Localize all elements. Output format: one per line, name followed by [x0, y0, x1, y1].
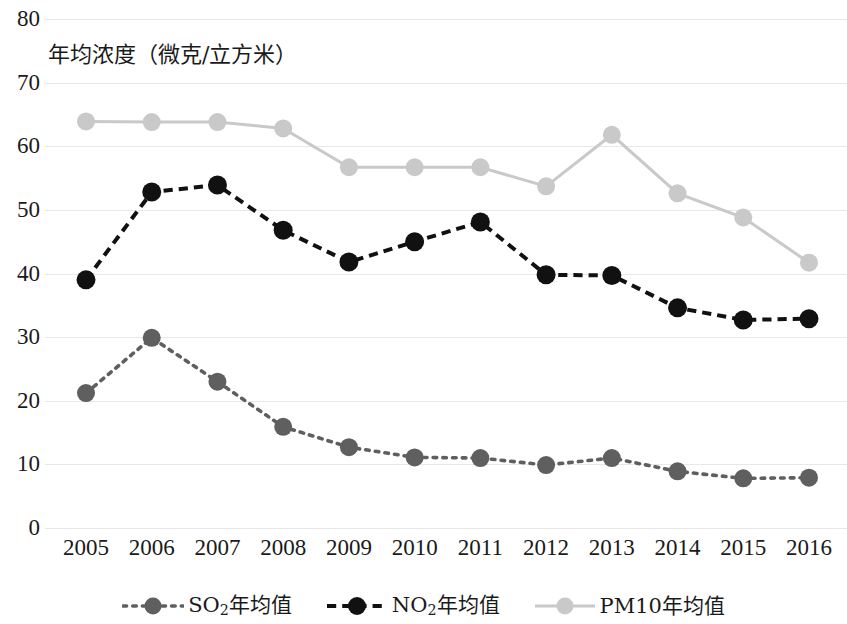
data-point — [603, 449, 621, 467]
y-tick-label: 80 — [0, 7, 40, 30]
data-point — [274, 418, 292, 436]
data-point — [602, 266, 621, 285]
x-tick-label: 2011 — [458, 534, 503, 562]
data-point — [800, 309, 819, 328]
data-point — [603, 126, 621, 144]
series-pm10 — [77, 112, 818, 271]
data-point — [406, 158, 424, 176]
series-line — [86, 185, 809, 320]
chart-legend: SO2年均值NO2年均值PM10年均值 — [0, 588, 847, 624]
y-tick-label: 60 — [0, 134, 40, 157]
legend-label: NO2年均值 — [392, 595, 500, 618]
data-point — [340, 158, 358, 176]
x-tick-label: 2016 — [786, 534, 832, 562]
data-point — [339, 253, 358, 272]
x-axis: 2005200620072008200920102011201220132014… — [45, 534, 847, 566]
air-quality-line-chart: 01020304050607080 年均浓度（微克/立方米） 200520062… — [0, 0, 847, 624]
data-point — [669, 462, 687, 480]
data-point — [800, 254, 818, 272]
data-point — [405, 232, 424, 251]
x-tick-label: 2013 — [589, 534, 635, 562]
y-tick-label: 10 — [0, 452, 40, 475]
y-tick-label: 0 — [0, 516, 40, 539]
data-point — [800, 469, 818, 487]
data-point — [77, 270, 96, 289]
data-point — [471, 449, 489, 467]
data-point — [274, 221, 293, 240]
data-point — [208, 176, 227, 195]
series-no2 — [77, 176, 819, 330]
data-point — [668, 298, 687, 317]
x-tick-label: 2008 — [260, 534, 306, 562]
y-tick-label: 70 — [0, 71, 40, 94]
legend-label: PM10年均值 — [600, 596, 725, 617]
x-tick-label: 2007 — [194, 534, 240, 562]
data-point — [77, 384, 95, 402]
y-tick-label: 50 — [0, 198, 40, 221]
legend-item[interactable]: SO2年均值 — [122, 595, 292, 618]
data-point — [734, 209, 752, 227]
data-point — [208, 113, 226, 131]
x-tick-label: 2015 — [720, 534, 766, 562]
legend-swatch — [534, 597, 596, 615]
y-tick-label: 20 — [0, 389, 40, 412]
y-tick-label: 30 — [0, 325, 40, 348]
data-point — [537, 265, 556, 284]
data-point — [669, 184, 687, 202]
data-point — [340, 438, 358, 456]
data-point — [208, 373, 226, 391]
data-point — [143, 329, 161, 347]
legend-item[interactable]: PM10年均值 — [534, 596, 725, 617]
x-tick-label: 2014 — [655, 534, 701, 562]
data-point — [471, 158, 489, 176]
x-tick-label: 2009 — [326, 534, 372, 562]
series-line — [86, 121, 809, 262]
data-point — [734, 469, 752, 487]
series-layer — [45, 19, 847, 528]
data-point — [274, 119, 292, 137]
data-point — [734, 310, 753, 329]
x-tick-label: 2005 — [63, 534, 109, 562]
x-tick-label: 2010 — [392, 534, 438, 562]
x-tick-label: 2012 — [523, 534, 569, 562]
legend-label: SO2年均值 — [188, 595, 292, 618]
gridline — [45, 528, 847, 529]
data-point — [77, 112, 95, 130]
y-axis: 01020304050607080 — [0, 0, 40, 624]
data-point — [142, 183, 161, 202]
legend-item[interactable]: NO2年均值 — [326, 595, 500, 618]
plot-area — [45, 19, 847, 528]
legend-swatch — [122, 597, 184, 615]
data-point — [471, 212, 490, 231]
data-point — [143, 113, 161, 131]
data-point — [537, 177, 555, 195]
y-tick-label: 40 — [0, 262, 40, 285]
series-line — [86, 338, 809, 479]
series-so2 — [77, 329, 818, 488]
data-point — [406, 448, 424, 466]
data-point — [537, 456, 555, 474]
x-tick-label: 2006 — [129, 534, 175, 562]
legend-swatch — [326, 597, 388, 615]
